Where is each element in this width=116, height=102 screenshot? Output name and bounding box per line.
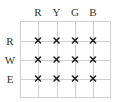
x-mark-icon	[54, 57, 59, 62]
row-label: W	[5, 54, 16, 66]
column-label: B	[89, 6, 96, 18]
column-label: G	[71, 6, 79, 18]
row-label: E	[7, 73, 14, 85]
x-mark-icon	[54, 76, 59, 81]
grid-border	[21, 22, 111, 98]
x-mark-icon	[54, 38, 59, 43]
row-label: R	[6, 35, 14, 47]
column-label: Y	[53, 6, 61, 18]
column-label: R	[34, 6, 42, 18]
grid-diagram: RYGB RWE	[0, 0, 116, 102]
